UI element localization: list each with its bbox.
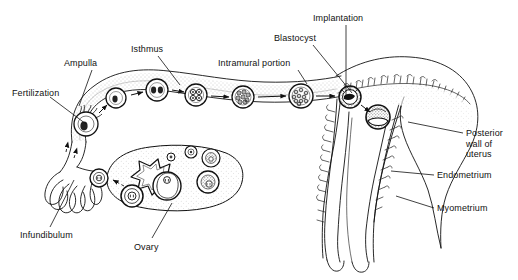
label-endometrium: Endometrium — [437, 170, 492, 181]
label-intramural-portion: Intramural portion — [218, 58, 290, 69]
label-ovary: Ovary — [134, 242, 159, 253]
stage-four-cell — [185, 84, 207, 106]
stage-attaching-blastocyst — [339, 86, 361, 108]
anatomical-diagram — [0, 0, 518, 280]
stage-two-cell — [146, 79, 168, 101]
label-posterior-wall: Posterior wall of uterus — [466, 128, 503, 160]
stage-blastocyst — [289, 84, 313, 108]
label-infundibulum: Infundibulum — [20, 230, 73, 241]
label-implantation: Implantation — [313, 13, 363, 24]
stage-zygote — [106, 88, 126, 108]
leader-infundibulum — [50, 180, 74, 227]
stage-implanted-blastocyst — [366, 105, 390, 129]
leader-endometrium — [391, 171, 434, 175]
label-fertilization: Fertilization — [12, 88, 59, 99]
label-blastocyst: Blastocyst — [274, 33, 316, 44]
label-ampulla: Ampulla — [64, 58, 97, 69]
label-myometrium: Myometrium — [437, 203, 488, 214]
leader-myometrium — [396, 196, 434, 208]
figure-canvas: Fertilization Ampulla Isthmus Intramural… — [0, 0, 518, 280]
stage-morula — [232, 86, 254, 108]
label-isthmus: Isthmus — [131, 44, 163, 55]
